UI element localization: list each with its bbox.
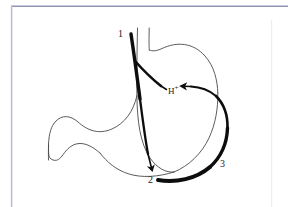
stomach-diagram-svg xyxy=(0,0,288,207)
label-1: 1 xyxy=(118,29,123,39)
label-2: 2 xyxy=(148,175,153,185)
arrow-1-branch-tip xyxy=(161,86,167,90)
antrum-lower-boundary xyxy=(100,153,174,176)
pathway-arrows xyxy=(131,34,228,181)
arrow-3-approach-h xyxy=(191,87,216,97)
label-h-plus-ion: H+ xyxy=(168,85,178,96)
figure-canvas: 1 2 3 H+ xyxy=(0,0,288,207)
greater-curvature-body xyxy=(174,93,218,172)
duodenum-lower-wall xyxy=(49,143,100,160)
label-3: 3 xyxy=(220,159,225,169)
duodenum-upper-wall xyxy=(48,96,136,160)
lesser-curvature xyxy=(137,96,174,172)
label-h-plus-charge: + xyxy=(175,84,179,92)
arrow-1-head-to-2 xyxy=(148,154,152,168)
